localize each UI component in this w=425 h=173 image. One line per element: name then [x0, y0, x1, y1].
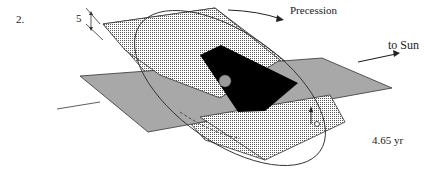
angle-label: 5 — [76, 12, 82, 24]
sun-direction-arrow — [358, 54, 396, 62]
central-body — [219, 75, 231, 87]
precession-label: Precession — [290, 4, 337, 16]
inclination-angle-marker — [86, 8, 103, 40]
period-label: 4.65 yr — [372, 134, 403, 146]
precession-arrow — [228, 10, 281, 19]
node-line — [57, 102, 100, 109]
figure-number: 2. — [16, 13, 24, 25]
satellite-marker — [315, 122, 320, 127]
sun-label: to Sun — [388, 38, 419, 53]
precession-diagram — [0, 0, 425, 173]
